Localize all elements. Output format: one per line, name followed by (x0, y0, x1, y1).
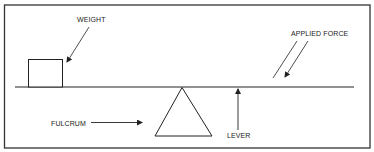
fulcrum-label: FULCRUM (51, 120, 86, 127)
weight-box (29, 60, 63, 88)
applied-force-line-1 (273, 41, 297, 78)
applied-force-arrow (285, 41, 308, 77)
weight-arrow (67, 27, 89, 62)
lever-diagram: WEIGHT APPLIED FORCE FULCRUM LEVER (0, 0, 374, 152)
weight-label: WEIGHT (77, 16, 106, 23)
lever-label: LEVER (227, 132, 250, 139)
applied-force-label: APPLIED FORCE (291, 30, 349, 37)
fulcrum-triangle (155, 88, 212, 137)
